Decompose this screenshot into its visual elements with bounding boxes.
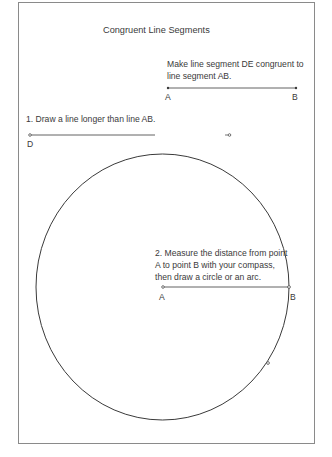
circle-point-b-label: B <box>290 292 296 302</box>
step1-text: 1. Draw a line longer than line AB. <box>26 113 155 125</box>
circle-center-a-label: A <box>159 292 165 302</box>
point-d-label: D <box>27 139 33 149</box>
step2-text: 2. Measure the distance from point A to … <box>155 247 293 283</box>
worksheet-title: Congruent Line Segments <box>103 24 210 36</box>
reference-point-a-label: A <box>165 92 171 102</box>
reference-point-b-label: B <box>292 92 298 102</box>
instruction-text: Make line segment DE congruent to line s… <box>167 58 307 82</box>
